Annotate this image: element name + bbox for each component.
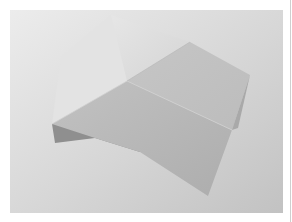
- photo: Photograph of a folded gray paper shape …: [10, 10, 283, 213]
- folded-paper-image: [10, 10, 283, 213]
- frame-divider: [290, 0, 291, 222]
